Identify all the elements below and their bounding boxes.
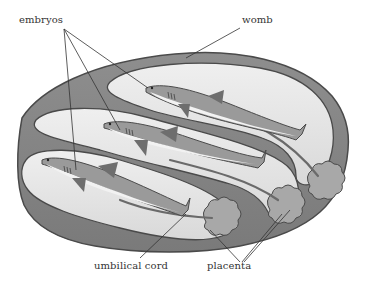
label-womb: womb xyxy=(242,15,273,25)
label-umbilical-cord: umbilical cord xyxy=(94,261,168,271)
diagram-illustration xyxy=(0,0,368,289)
shark-embryo-diagram: embryos womb umbilical cord placenta xyxy=(0,0,368,289)
label-embryos: embryos xyxy=(19,15,63,25)
label-placenta: placenta xyxy=(207,261,251,271)
placenta-right xyxy=(307,161,345,199)
